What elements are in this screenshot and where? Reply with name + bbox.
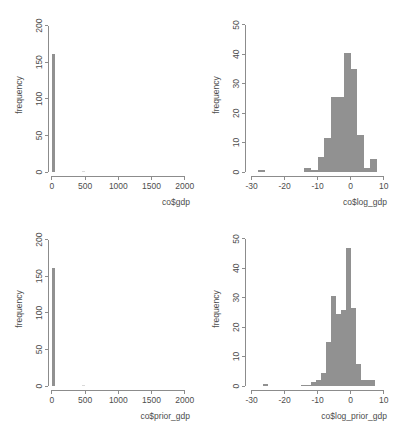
- histogram-bar: [351, 308, 356, 386]
- y-axis-tick-label: 200: [34, 18, 44, 32]
- plot-area-hist-gdp: 050100150200 0500100015002000 co$gdp fre…: [0, 0, 197, 214]
- plot-area-hist-log-prior-gdp: 01020304050 -30-20-10010 co$log_prior_gd…: [197, 214, 394, 428]
- histogram-bar: [82, 171, 85, 172]
- x-axis-tick-label: 0: [348, 181, 353, 191]
- bars-hist-log-gdp: [258, 53, 377, 172]
- x-axis-tick-label: 10: [379, 395, 389, 405]
- plot-svg-hist-log-gdp: 01020304050 -30-20-10010 co$log_gdp freq…: [197, 0, 394, 214]
- histogram-bar: [344, 53, 351, 172]
- x-axis-hist-prior-gdp: 0500100015002000: [50, 390, 195, 405]
- x-axis-tick-label: 0: [348, 395, 353, 405]
- x-axis-tick-label: 0: [50, 395, 55, 405]
- y-axis-title: frequency: [211, 290, 221, 328]
- histogram-bar: [370, 380, 375, 386]
- y-axis-tick-label: 10: [231, 138, 241, 148]
- histogram-bar: [351, 69, 358, 172]
- x-axis-tick-label: 2000: [175, 181, 194, 191]
- plot-area-hist-prior-gdp: 050100150200 0500100015002000 co$prior_g…: [0, 214, 197, 428]
- histogram-bar: [301, 385, 306, 386]
- histogram-bar: [82, 385, 85, 386]
- y-axis-tick-label: 50: [34, 344, 44, 354]
- x-axis-title: co$gdp: [162, 197, 190, 207]
- histogram-bar: [356, 364, 361, 386]
- histogram-bar: [321, 373, 326, 386]
- y-axis-tick-label: 20: [231, 322, 241, 332]
- panel-hist-log-prior-gdp: 01020304050 -30-20-10010 co$log_prior_gd…: [197, 214, 394, 428]
- histogram-bar: [316, 380, 321, 386]
- x-axis-tick-label: 10: [379, 181, 389, 191]
- histogram-bar: [346, 248, 351, 386]
- y-axis-tick-label: 150: [34, 55, 44, 69]
- plot-svg-hist-prior-gdp: 050100150200 0500100015002000 co$prior_g…: [0, 214, 197, 428]
- x-axis-tick-label: 0: [50, 181, 55, 191]
- plot-svg-hist-gdp: 050100150200 0500100015002000 co$gdp fre…: [0, 0, 197, 214]
- bars-hist-prior-gdp: [52, 268, 85, 386]
- y-axis-tick-label: 50: [34, 130, 44, 140]
- y-axis-tick-label: 150: [34, 269, 44, 283]
- histogram-bar: [306, 385, 311, 386]
- histogram-bar: [331, 97, 338, 172]
- y-axis-tick-label: 200: [34, 232, 44, 246]
- histogram-bar: [326, 342, 331, 386]
- x-axis-tick-label: -30: [245, 181, 258, 191]
- histogram-bar: [336, 314, 341, 386]
- y-axis-tick-label: 30: [231, 293, 241, 303]
- x-axis-tick-label: -10: [312, 181, 325, 191]
- histogram-bar: [324, 138, 331, 172]
- y-axis-tick-label: 30: [231, 79, 241, 89]
- histogram-bar: [366, 380, 371, 386]
- x-axis-tick-label: 500: [78, 395, 92, 405]
- histogram-bar: [341, 310, 346, 386]
- panel-hist-log-gdp: 01020304050 -30-20-10010 co$log_gdp freq…: [197, 0, 394, 214]
- x-axis-tick-label: 1000: [109, 395, 128, 405]
- y-axis-tick-label: 0: [231, 383, 241, 388]
- y-axis-tick-label: 0: [34, 383, 44, 388]
- x-axis-tick-label: 1500: [142, 181, 161, 191]
- y-axis-tick-label: 20: [231, 108, 241, 118]
- x-axis-tick-label: 2000: [175, 395, 194, 405]
- y-axis-tick-label: 0: [231, 169, 241, 174]
- x-axis-tick-label: 1000: [109, 181, 128, 191]
- x-axis-tick-label: -10: [312, 395, 325, 405]
- y-axis-title: frequency: [211, 76, 221, 114]
- x-axis-tick-label: -20: [278, 181, 291, 191]
- y-axis-hist-log-prior-gdp: 01020304050: [231, 234, 245, 388]
- x-axis-hist-gdp: 0500100015002000: [50, 176, 195, 191]
- histogram-figure: 050100150200 0500100015002000 co$gdp fre…: [0, 0, 395, 428]
- histogram-bar: [331, 296, 336, 386]
- x-axis-tick-label: -30: [245, 395, 258, 405]
- histogram-bar: [304, 168, 311, 172]
- y-axis-tick-label: 10: [231, 352, 241, 362]
- x-axis-hist-log-prior-gdp: -30-20-10010: [245, 390, 388, 405]
- x-axis-title: co$prior_gdp: [140, 411, 190, 421]
- y-axis-hist-log-gdp: 01020304050: [231, 20, 245, 174]
- plot-area-hist-log-gdp: 01020304050 -30-20-10010 co$log_gdp freq…: [197, 0, 394, 214]
- histogram-bar: [258, 170, 265, 172]
- y-axis-tick-label: 50: [231, 234, 241, 244]
- y-axis-tick-label: 100: [34, 305, 44, 319]
- x-axis-hist-log-gdp: -30-20-10010: [245, 176, 388, 191]
- y-axis-tick-label: 100: [34, 91, 44, 105]
- panel-hist-gdp: 050100150200 0500100015002000 co$gdp fre…: [0, 0, 197, 214]
- y-axis-tick-label: 0: [34, 169, 44, 174]
- histogram-bar: [361, 380, 366, 386]
- y-axis-hist-gdp: 050100150200: [34, 18, 48, 174]
- histogram-bar: [311, 170, 318, 172]
- bars-hist-log-prior-gdp: [263, 248, 375, 386]
- x-axis-tick-label: 1500: [142, 395, 161, 405]
- y-axis-tick-label: 40: [231, 263, 241, 273]
- y-axis-tick-label: 50: [231, 20, 241, 30]
- y-axis-tick-label: 40: [231, 49, 241, 59]
- x-axis-title: co$log_gdp: [343, 197, 387, 207]
- histogram-bar: [263, 384, 268, 386]
- panel-hist-prior-gdp: 050100150200 0500100015002000 co$prior_g…: [0, 214, 197, 428]
- histogram-bar: [357, 135, 364, 172]
- histogram-bar: [364, 168, 371, 172]
- x-axis-tick-label: -20: [278, 395, 291, 405]
- plot-svg-hist-log-prior-gdp: 01020304050 -30-20-10010 co$log_prior_gd…: [197, 214, 394, 428]
- histogram-bar: [337, 97, 344, 172]
- y-axis-title: frequency: [14, 76, 24, 114]
- bars-hist-gdp: [52, 54, 85, 172]
- x-axis-title: co$log_prior_gdp: [321, 411, 387, 421]
- y-axis-title: frequency: [14, 290, 24, 328]
